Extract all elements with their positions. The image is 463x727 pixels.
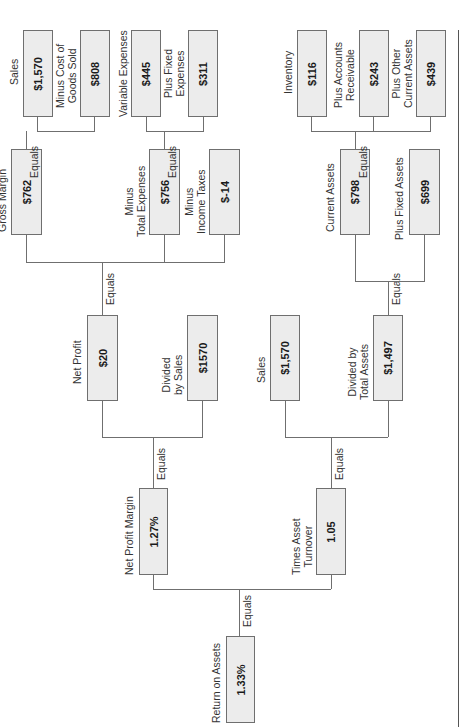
cogs-box: $808 (80, 30, 110, 117)
inventory-box: $116 (297, 30, 327, 117)
cogs-stub (94, 117, 95, 131)
net-profit-connector (102, 262, 103, 315)
div-sales-value: $1570 (197, 343, 209, 374)
net-profit-box: $20 (87, 315, 118, 401)
tat-stub (331, 575, 332, 589)
div-total-assets-value: $1,497 (382, 341, 394, 375)
te-stub (164, 235, 165, 262)
st-stub (37, 117, 38, 131)
roa-value: 1.33% (235, 664, 247, 695)
tat-label: Times AssetTurnover (290, 518, 314, 575)
total-expenses-label: MinusTotal Expenses (123, 166, 147, 237)
inventory-label: Inventory (282, 51, 294, 94)
it-stub (224, 235, 225, 262)
cogs-value: $808 (89, 61, 101, 85)
te-bracket (146, 131, 204, 132)
net-profit-label: Net Profit (71, 340, 83, 384)
gross-margin-label: Gross Margin (0, 169, 8, 232)
sales-top-value: $1,570 (32, 57, 44, 91)
total-expenses-value: $756 (159, 180, 171, 204)
page-edge-rule (458, 30, 459, 727)
variable-expenses-value: $445 (140, 61, 152, 85)
other-current-assets-box: $439 (416, 30, 446, 117)
other-current-assets-label: Plus OtherCurrent Assets (390, 39, 414, 108)
fixed-expenses-box: $311 (188, 30, 218, 117)
fixed-expenses-label: Plus FixedExpenses (162, 49, 186, 98)
net-profit-bracket (26, 262, 225, 263)
oca-stub (430, 117, 431, 131)
accounts-receivable-value: $243 (368, 61, 380, 85)
ca-stub (355, 235, 356, 281)
sales-mid-label: Sales (255, 357, 267, 383)
inv-stub (311, 117, 312, 131)
tat-connector (331, 437, 332, 488)
ca-connector (355, 131, 356, 149)
gm-stub (26, 235, 27, 262)
net-profit-value: $20 (97, 349, 109, 367)
te-equals: Equals (166, 146, 178, 178)
dta-connector (388, 281, 389, 315)
variable-expenses-box: $445 (131, 30, 161, 117)
gross-margin-value: $762 (21, 180, 33, 204)
fe-stub (203, 117, 204, 131)
dta-stub (388, 401, 389, 437)
npm-value: 1.27% (148, 516, 160, 547)
fixed-expenses-value: $311 (197, 62, 209, 86)
np-stub (102, 401, 103, 437)
npm-connector (153, 437, 154, 488)
sales-top-label: Sales (8, 59, 20, 85)
income-taxes-value: $-14 (219, 181, 231, 203)
sm-stub (285, 401, 286, 437)
tat-box: 1.05 (316, 488, 346, 575)
te-connector (164, 131, 165, 149)
accounts-receivable-box: $243 (359, 30, 389, 117)
fixed-assets-box: $699 (409, 149, 440, 235)
npm-box: 1.27% (139, 488, 168, 575)
accounts-receivable-label: Plus AccountsReceivable (332, 42, 356, 108)
ar-stub (373, 117, 374, 131)
npm-stub (153, 575, 154, 589)
npm-label: Net Profit Margin (123, 496, 135, 575)
current-assets-value: $798 (349, 180, 361, 204)
ve-stub (146, 117, 147, 131)
cogs-label: Minus Cost ofGoods Sold (54, 44, 78, 108)
div-sales-box: $1570 (187, 315, 218, 401)
npm-bracket (102, 437, 203, 438)
gm-equals: Equals (28, 146, 40, 178)
div-sales-label: Dividedby Sales (160, 355, 184, 395)
sales-mid-box: $1,570 (270, 315, 300, 401)
ca-equals: Equals (357, 146, 369, 178)
roa-bracket (153, 589, 331, 590)
fixed-assets-value: $699 (419, 180, 431, 204)
fixed-assets-label: Plus Fixed Assets (393, 157, 405, 240)
other-current-assets-value: $439 (425, 61, 437, 85)
tat-bracket (285, 437, 388, 438)
dta-equals: Equals (390, 273, 402, 305)
ds-stub (202, 401, 203, 437)
roa-label: Return on Assets (210, 643, 222, 723)
fa-stub (424, 235, 425, 281)
roa-equals: Equals (241, 595, 253, 627)
gm-connector (26, 131, 27, 149)
income-taxes-box: $-14 (209, 149, 240, 235)
current-assets-label: Current Assets (324, 163, 336, 232)
inventory-value: $116 (306, 62, 318, 86)
tat-equals: Equals (333, 448, 345, 480)
npm-equals: Equals (155, 448, 167, 480)
net-profit-equals: Equals (104, 273, 116, 305)
ca-bracket (311, 131, 431, 132)
total-assets-bracket (355, 281, 425, 282)
variable-expenses-label: Variable Expenses (117, 30, 129, 117)
sales-mid-value: $1,570 (279, 341, 291, 375)
div-total-assets-label: Divided byTotal Assets (346, 344, 370, 400)
roa-connector (239, 589, 240, 636)
sales-top-box: $1,570 (23, 30, 53, 117)
tat-value: 1.05 (325, 521, 337, 542)
income-taxes-label: MinusIncome Taxes (183, 169, 207, 234)
roa-box: 1.33% (226, 636, 255, 723)
div-total-assets-box: $1,497 (373, 315, 403, 401)
gm-bracket (37, 131, 95, 132)
